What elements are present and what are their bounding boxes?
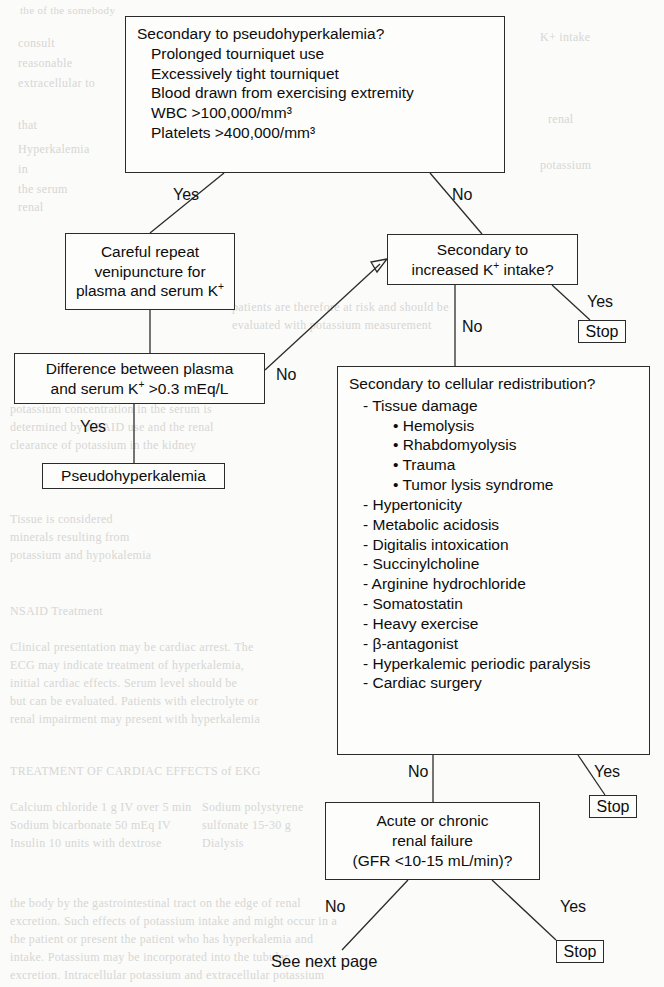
ghost-text-layer: renal	[548, 112, 573, 127]
edge-label-top-yes: Yes	[173, 186, 199, 204]
ghost-text-layer: reasonable	[18, 56, 72, 71]
stop-label: Stop	[586, 323, 619, 341]
ghost-text-layer: but can be evaluated. Patients with elec…	[10, 694, 258, 709]
node-heading: Secondary to cellular redistribution?	[349, 374, 640, 394]
ghost-text-layer: Sodium polystyrene	[202, 800, 304, 815]
edge-label-redistribution-yes: Yes	[594, 763, 620, 781]
ghost-text-layer: patients are therefore at risk and shoul…	[232, 300, 449, 315]
edge-label-redistribution-no: No	[408, 763, 428, 781]
ghost-text-layer: sulfonate 15-30 g	[202, 818, 291, 833]
node-stop-increased-intake[interactable]: Stop	[578, 320, 626, 343]
node-list-item: - Cardiac surgery	[349, 673, 640, 693]
node-list-item: - Arginine hydrochloride	[349, 574, 640, 594]
edge-label-renal-yes: Yes	[560, 898, 586, 916]
ghost-text-layer: renal impairment may present with hyperk…	[10, 712, 260, 727]
node-cellular-redistribution-question[interactable]: Secondary to cellular redistribution? - …	[337, 366, 650, 755]
node-list-item: - Hyperkalemic periodic paralysis	[349, 654, 640, 674]
ghost-text-layer: the body by the gastrointestinal tract o…	[10, 896, 301, 911]
node-see-next-page[interactable]: See next page	[271, 952, 377, 971]
ghost-text-layer: NSAID Treatment	[10, 604, 103, 619]
node-list-item: - Succinylcholine	[349, 554, 640, 574]
ghost-text-layer: that	[18, 118, 37, 133]
node-list-item: Platelets >400,000/mm³	[137, 123, 495, 143]
node-heading: Secondary to pseudohyperkalemia?	[137, 24, 495, 44]
ghost-text-layer: TREATMENT OF CARDIAC EFFECTS of EKG	[10, 764, 261, 779]
ghost-text-layer: Tissue is considered	[10, 512, 113, 527]
node-line-2: venipuncture for	[94, 262, 205, 282]
node-line-2: renal failure	[392, 831, 473, 851]
node-list-item: Excessively tight tourniquet	[137, 64, 495, 84]
edge-label-intake-yes: Yes	[587, 293, 613, 311]
ghost-text-layer: Clinical presentation may be cardiac arr…	[10, 640, 254, 655]
ghost-text-layer: intake. Potassium may be incorporated in…	[10, 950, 289, 965]
node-line-3: (GFR <10-15 mL/min)?	[353, 851, 513, 871]
ghost-text-layer: minerals resulting from	[10, 530, 130, 545]
edge-label-intake-no: No	[462, 318, 482, 336]
ghost-text-layer: initial cardiac effects. Serum level sho…	[10, 676, 237, 691]
ghost-text-layer: the patient or present the patient who h…	[10, 932, 313, 947]
ghost-text-layer: Insulin 10 units with dextrose	[10, 836, 162, 851]
node-line-1: Acute or chronic	[377, 811, 489, 831]
node-list-item: - Metabolic acidosis	[349, 515, 640, 535]
stop-label: Stop	[597, 798, 630, 816]
ghost-text-layer: Hyperkalemia	[18, 142, 90, 157]
node-list-item: - Somatostatin	[349, 594, 640, 614]
node-list-item: - Heavy exercise	[349, 614, 640, 634]
ghost-text-layer: potassium concentration in the serum is	[10, 402, 212, 417]
node-list-item: • Rhabdomyolysis	[349, 435, 640, 455]
ghost-text-layer: Sodium bicarbonate 50 mEq IV	[10, 818, 171, 833]
flowchart-page: the of the somebody consult reasonable e…	[0, 0, 664, 987]
node-list-item: • Trauma	[349, 455, 640, 475]
node-renal-failure-question[interactable]: Acute or chronic renal failure (GFR <10-…	[325, 802, 540, 880]
ghost-text-layer: potassium	[540, 158, 591, 173]
ghost-text-layer: Dialysis	[202, 836, 244, 851]
node-line-2: increased K+ intake?	[411, 260, 553, 280]
node-stop-cellular-redistribution[interactable]: Stop	[589, 795, 637, 818]
ghost-text-layer: Calcium chloride 1 g IV over 5 min	[10, 800, 192, 815]
ghost-text-layer: consult	[18, 36, 55, 51]
node-line-3: plasma and serum K+	[76, 281, 224, 301]
ghost-text-layer: determined by NSAID use and the renal	[10, 420, 214, 435]
ghost-text-layer: excretion. Such effects of potassium int…	[10, 914, 337, 929]
node-line-1: Careful repeat	[101, 242, 199, 262]
node-list-item: - Tissue damage	[349, 396, 640, 416]
ghost-text-layer: evaluated with potassium measurement	[232, 318, 432, 333]
node-list-item: Prolonged tourniquet use	[137, 44, 495, 64]
edge-label-top-no: No	[452, 186, 472, 204]
ghost-text-layer: potassium and hypokalemia	[10, 548, 151, 563]
edge-label-difference-no: No	[276, 366, 296, 384]
node-increased-intake-question[interactable]: Secondary to increased K+ intake?	[387, 234, 578, 285]
edge-label-difference-yes: Yes	[80, 418, 106, 436]
node-difference-plasma-serum[interactable]: Difference between plasma and serum K+ >…	[14, 353, 265, 404]
node-line-1: Difference between plasma	[46, 359, 234, 379]
result-label: Pseudohyperkalemia	[61, 466, 206, 486]
ghost-text-layer: renal	[18, 200, 43, 215]
stop-label: Stop	[564, 943, 597, 961]
node-list-item: • Tumor lysis syndrome	[349, 475, 640, 495]
node-list-item: - Digitalis intoxication	[349, 535, 640, 555]
ghost-text-layer: ECG may indicate treatment of hyperkalem…	[10, 658, 244, 673]
node-line-2: and serum K+ >0.3 mEq/L	[51, 379, 229, 399]
node-list-item: • Hemolysis	[349, 416, 640, 436]
edge-label-renal-no: No	[325, 898, 345, 916]
ghost-text-layer: clearance of potassium in the kidney	[10, 438, 196, 453]
ghost-text-layer: K+ intake	[540, 30, 590, 45]
node-list-item: - β-antagonist	[349, 634, 640, 654]
ghost-text-layer: extracellular to	[18, 76, 95, 91]
ghost-text-layer: the of the somebody	[20, 4, 115, 16]
node-stop-renal-failure[interactable]: Stop	[556, 940, 604, 963]
node-list-item: - Hypertonicity	[349, 495, 640, 515]
node-list-item: Blood drawn from exercising extremity	[137, 83, 495, 103]
node-pseudohyperkalemia-result[interactable]: Pseudohyperkalemia	[42, 463, 225, 489]
ghost-text-layer: in	[18, 162, 28, 177]
ghost-text-layer: the serum	[18, 182, 68, 197]
node-careful-repeat-venipuncture[interactable]: Careful repeat venipuncture for plasma a…	[65, 233, 235, 310]
node-list-item: WBC >100,000/mm³	[137, 103, 495, 123]
node-line-1: Secondary to	[437, 240, 528, 260]
node-pseudohyperkalemia-question[interactable]: Secondary to pseudohyperkalemia? Prolong…	[125, 16, 505, 173]
